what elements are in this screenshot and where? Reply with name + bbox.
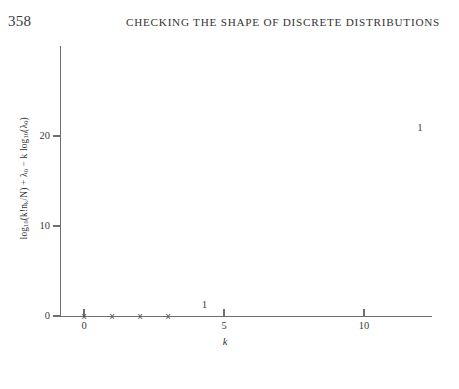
y-tick-label: 10 (10, 220, 50, 232)
y-tick (53, 315, 60, 316)
y-axis-title: log10(k!nk/N) + λ0 − k log10(λ0) (19, 78, 30, 278)
x-axis-title: k (208, 336, 242, 347)
y-tick-label: 20 (10, 130, 50, 142)
data-point: x (77, 309, 91, 323)
y-tick-label: 0 (10, 310, 50, 322)
y-axis-title-text: log10(k!nk/N) + λ0 − k log10(λ0) (19, 117, 29, 239)
x-tick-label: 10 (349, 320, 379, 331)
data-point: 1 (197, 297, 211, 311)
data-point: x (161, 309, 175, 323)
y-tick-label-text: 0 (22, 310, 50, 321)
x-tick-label: 5 (209, 320, 239, 331)
scatter-chart: 01020 0510 log10(k!nk/N) + λ0 − k log10(… (0, 38, 459, 389)
page-number: 358 (8, 13, 31, 30)
data-point: 1 (413, 120, 427, 134)
y-axis-line (60, 46, 61, 317)
running-head: CHECKING THE SHAPE OF DISCRETE DISTRIBUT… (118, 16, 448, 28)
book-page: 358 CHECKING THE SHAPE OF DISCRETE DISTR… (0, 0, 459, 389)
y-tick (53, 225, 60, 226)
y-tick (53, 135, 60, 136)
x-tick (223, 309, 224, 316)
x-tick (363, 309, 364, 316)
data-point: x (105, 309, 119, 323)
data-point: x (133, 309, 147, 323)
